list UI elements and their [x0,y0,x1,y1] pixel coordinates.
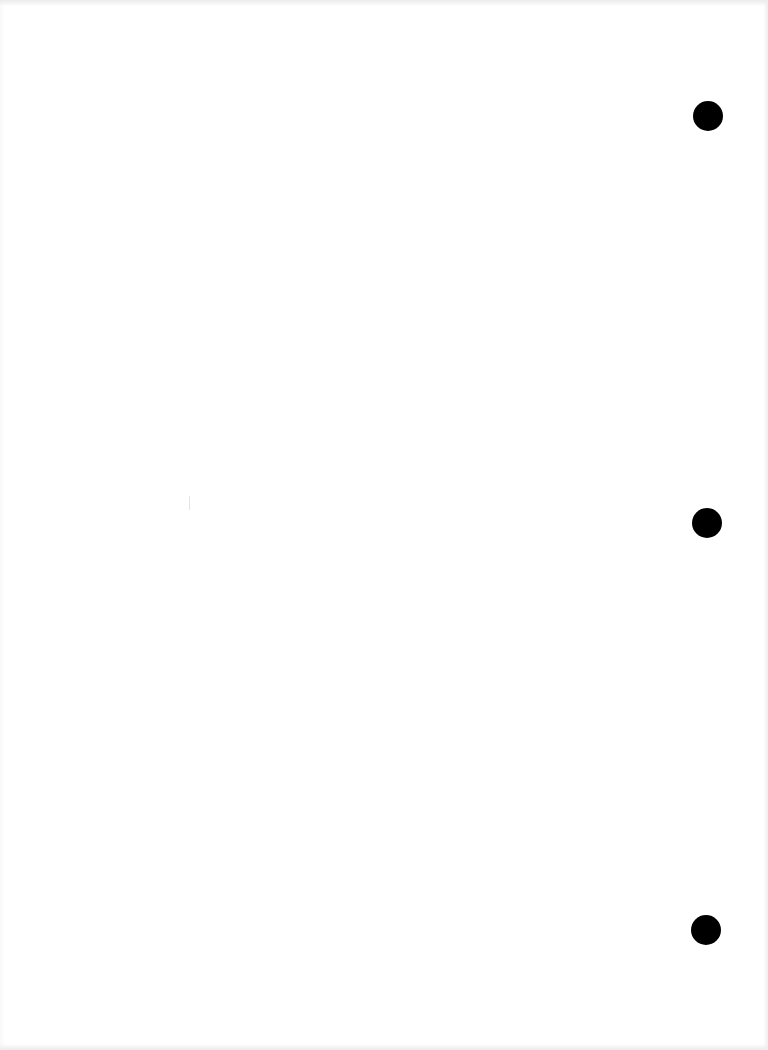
scan-edge-right [764,0,768,1050]
blank-page [0,0,768,1050]
faint-scan-mark [189,496,190,510]
punch-hole-bottom [691,915,721,945]
punch-hole-middle [692,508,722,538]
scan-edge-top [0,0,768,6]
scan-edge-bottom [0,1044,768,1050]
punch-hole-top [693,101,723,131]
